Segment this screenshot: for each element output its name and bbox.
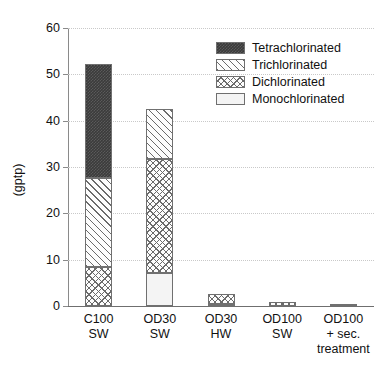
x-axis-label-line-1: OD100 [252, 312, 313, 327]
bar-segment-od30-sw-trichlorinated [146, 109, 173, 159]
x-axis-label-line-1: OD100 [313, 312, 374, 327]
x-axis-label-od100-sec-treatment: OD100+ sec.treatment [313, 312, 374, 357]
x-axis-label-line-2: SW [252, 327, 313, 342]
bar-segment-od30-hw-monochlorinated [208, 304, 235, 306]
bar-od30-sw [146, 28, 173, 306]
legend-label-tetrachlorinated: Tetrachlorinated [252, 41, 341, 55]
x-axis-label-od30-hw: OD30HW [190, 312, 251, 342]
y-tick-mark-10 [63, 260, 68, 261]
y-tick-label-10: 10 [46, 253, 60, 267]
bar-segment-c100-sw-dichlorinated [85, 267, 112, 306]
x-axis-label-od100-sw: OD100SW [252, 312, 313, 342]
bar-segment-od30-sw-dichlorinated [146, 159, 173, 273]
diagonal-hatch-swatch [216, 59, 245, 71]
x-axis-label-line-2: + sec. [313, 327, 374, 342]
x-axis-label-line-3: treatment [313, 342, 374, 357]
stacked-bar-chart: (gptp) 60 50 40 30 20 [0, 0, 382, 374]
y-tick-label-50: 50 [46, 67, 60, 81]
bar-segment-c100-sw-trichlorinated [85, 178, 112, 267]
x-axis-label-line-2: HW [190, 327, 251, 342]
bar-segment-od30-sw-monochlorinated [146, 273, 173, 306]
y-tick-label-60: 60 [46, 21, 60, 35]
x-axis-label-od30-sw: OD30SW [129, 312, 190, 342]
bar-segment-od100-sec-treatment-baseline [330, 304, 357, 306]
legend-label-dichlorinated: Dichlorinated [252, 75, 325, 89]
y-tick-mark-50 [63, 74, 68, 75]
y-tick-mark-0 [63, 306, 68, 307]
chart-legend: TetrachlorinatedTrichlorinatedDichlorina… [216, 40, 344, 108]
y-tick-label-30: 30 [46, 160, 60, 174]
x-axis-spine [68, 306, 374, 307]
y-axis-title-text: (gptp) [11, 164, 25, 197]
legend-item-tetrachlorinated[interactable]: Tetrachlorinated [216, 40, 344, 56]
legend-label-trichlorinated: Trichlorinated [252, 58, 327, 72]
bar-segment-od100-sw-dichlorinated [269, 302, 296, 306]
x-axis-label-line-2: SW [68, 327, 129, 342]
y-tick-label-0: 0 [53, 299, 60, 313]
bar-segment-c100-sw-tetrachlorinated [85, 64, 112, 178]
y-tick-mark-20 [63, 213, 68, 214]
x-axis-label-line-1: C100 [68, 312, 129, 327]
y-tick-mark-30 [63, 167, 68, 168]
y-tick-mark-60 [63, 28, 68, 29]
legend-item-monochlorinated[interactable]: Monochlorinated [216, 91, 344, 107]
x-axis-label-line-1: OD30 [190, 312, 251, 327]
legend-item-trichlorinated[interactable]: Trichlorinated [216, 57, 344, 73]
x-axis-label-c100-sw: C100SW [68, 312, 129, 342]
y-tick-label-20: 20 [46, 206, 60, 220]
x-axis-label-line-1: OD30 [129, 312, 190, 327]
legend-item-dichlorinated[interactable]: Dichlorinated [216, 74, 344, 90]
bar-segment-od30-hw-dichlorinated [208, 294, 235, 303]
bar-c100-sw [85, 28, 112, 306]
white-swatch [216, 93, 245, 105]
crosshatch-swatch [216, 76, 245, 88]
x-axis-label-line-2: SW [129, 327, 190, 342]
y-tick-mark-40 [63, 121, 68, 122]
legend-label-monochlorinated: Monochlorinated [252, 92, 344, 106]
dense-dark-swatch [216, 42, 245, 54]
y-tick-label-40: 40 [46, 114, 60, 128]
y-axis-title: (gptp) [6, 140, 30, 220]
